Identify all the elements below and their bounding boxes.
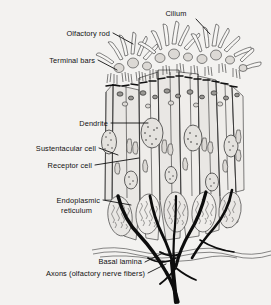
leader-cilium-icon xyxy=(196,19,210,34)
label-dendrite: Dendrite xyxy=(79,119,108,128)
label-olfactory-rod: Olfactory rod xyxy=(66,29,110,38)
label-sustentacular-cell: Sustentacular cell xyxy=(36,144,96,153)
label-cilium: Cilium xyxy=(165,9,186,18)
leader-terminal-bars-icon xyxy=(98,60,117,70)
label-axons: Axons (olfactory nerve fibers) xyxy=(46,269,145,278)
cilia-group xyxy=(96,21,261,69)
label-reticulum: reticulum xyxy=(61,206,92,215)
label-endoplasmic: Endoplasmic xyxy=(57,196,101,205)
label-terminal-bars: Terminal bars xyxy=(49,56,95,65)
olfactory-epithelium-figure: Cilium Olfactory rod Terminal bars Dendr… xyxy=(0,0,271,305)
label-basal-lamina: Basal lamina xyxy=(98,257,142,266)
label-receptor-cell: Receptor cell xyxy=(48,161,93,170)
